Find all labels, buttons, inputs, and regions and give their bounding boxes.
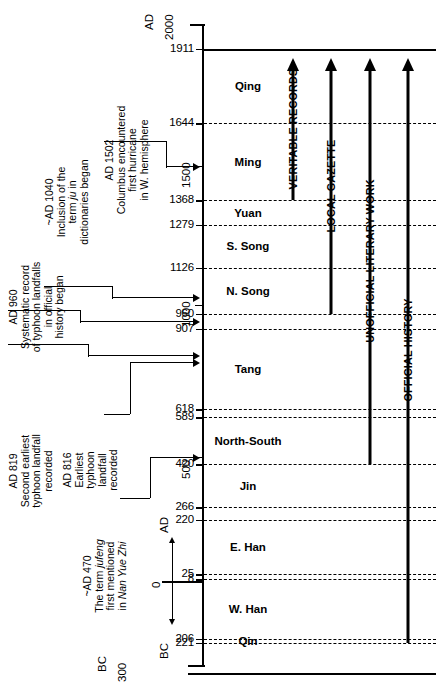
stub-816 — [104, 414, 130, 415]
elbow-819 — [88, 344, 89, 355]
boundary-line-dashed — [204, 507, 436, 508]
axis-tick-label: 1911 — [160, 42, 194, 54]
annotation-leader-run — [80, 321, 194, 322]
boundary-line-dashed — [204, 417, 436, 418]
stub-1040 — [44, 286, 112, 287]
annotation-date: AD 819 — [8, 397, 20, 545]
source-label: UNOFFICIAL LITERARY WORK — [364, 179, 376, 343]
axis-tick — [196, 200, 204, 201]
axis-tick — [196, 464, 204, 465]
elbow-1040 — [112, 286, 113, 297]
axis-tick-label: 1126 — [160, 261, 194, 273]
axis-bottom-year-label: 300 — [116, 663, 128, 682]
axis-tick-label: 907 — [160, 322, 194, 334]
source-label: LOCAL GAZETTE — [325, 139, 337, 232]
dynasty-label: Jin — [240, 480, 257, 492]
annotation-line: in Nan Yue Zhi — [117, 502, 129, 650]
axis-tick — [196, 520, 204, 521]
annotation-leader-arrow — [193, 318, 200, 326]
axis-top-cap — [190, 24, 205, 26]
axis-tick-label: 266 — [160, 500, 194, 512]
boundary-line-dashed — [204, 123, 436, 124]
annotation-leader-arrow — [193, 163, 200, 171]
annotation-ad-470: ~AD 470The term jufengfirst mentionedin … — [82, 502, 128, 650]
elbow-960 — [80, 310, 81, 321]
axis-bottom-era-label: BC — [96, 656, 108, 672]
annotation-leader-run — [166, 166, 194, 167]
annotation-leader-arrow — [193, 359, 200, 367]
stub-1502 — [104, 141, 166, 142]
axis-decade-tick — [195, 305, 203, 306]
annotation-leader-arrow — [193, 294, 200, 302]
annotation-ad-1502: AD 1502Columbus encounteredfirst hurrica… — [104, 62, 150, 258]
source-label: OFFICIAL HISTORY — [402, 299, 414, 402]
boundary-line-dashed — [204, 464, 436, 465]
annotation-date: AD 960 — [8, 214, 20, 400]
stub-470 — [120, 498, 150, 499]
boundary-line-dashed — [204, 225, 436, 226]
dynasty-label: North-South — [214, 435, 281, 447]
dynasty-label: E. Han — [230, 541, 266, 553]
annotation-leader-run — [130, 362, 194, 363]
dynasty-label: Tang — [235, 363, 262, 375]
axis-tick — [196, 579, 204, 580]
axis-top-year-label: 2000 — [163, 14, 175, 40]
annotation-date: AD 1502 — [104, 62, 116, 258]
dynasty-label: Ming — [235, 156, 262, 168]
axis-tick — [196, 643, 204, 644]
axis-tick — [196, 314, 204, 315]
dynasty-label: S. Song — [227, 240, 270, 252]
boundary-line-dashed — [204, 574, 436, 575]
axis-tick-label: 221 — [160, 636, 194, 648]
boundary-line-dashed — [204, 200, 436, 201]
boundary-line-dashed — [204, 409, 436, 410]
dynasty-label: Qing — [235, 80, 261, 92]
dynasty-label: W. Han — [229, 603, 267, 615]
axis-bottom-cap — [188, 665, 205, 667]
axis-tick-label: 8 — [160, 572, 194, 584]
boundary-line-dashed — [204, 520, 436, 521]
dynasty-label: N. Song — [226, 285, 269, 297]
annotation-date: AD 816 — [62, 395, 74, 545]
elbow-470 — [150, 457, 151, 498]
axis-tick-label: 960 — [160, 307, 194, 319]
axis-tick — [196, 417, 204, 418]
annotation-ad-960: AD 960Systematic recordof typhoon landfa… — [8, 214, 66, 400]
annotation-leader-run — [88, 355, 194, 356]
boundary-line-solid — [204, 49, 436, 51]
annotation-leader-arrow — [193, 454, 200, 462]
dynasty-label: Qin — [238, 635, 257, 647]
axis-tick — [196, 225, 204, 226]
source-label: VERITABLE RECORDS — [287, 69, 299, 190]
axis-tick — [196, 268, 204, 269]
axis-tick — [196, 49, 204, 50]
annotation-line: dictionaries began — [79, 122, 91, 282]
axis-tick — [196, 329, 204, 330]
axis-tick — [196, 123, 204, 124]
annotation-line: recorded — [43, 397, 55, 545]
axis-top-era-label: AD — [143, 14, 155, 30]
axis-tick — [196, 507, 204, 508]
figure-baseline — [188, 673, 436, 675]
axis-tick-label: 1279 — [160, 218, 194, 230]
elbow-816 — [130, 362, 131, 414]
boundary-line-dashed — [204, 268, 436, 269]
annotation-leader-run — [112, 297, 194, 298]
stub-960 — [8, 310, 80, 311]
axis-tick — [196, 639, 204, 640]
timeline-axis — [202, 24, 204, 665]
era-arrow-down — [169, 619, 175, 625]
boundary-line-dashed — [204, 579, 436, 580]
annotation-date: ~AD 470 — [82, 502, 94, 650]
annotation-ad-819: AD 819Second earliesttyphoon landfallrec… — [8, 397, 54, 545]
axis-tick — [196, 574, 204, 575]
annotation-line: in W. hemisphere — [139, 62, 151, 258]
stub-819 — [8, 344, 88, 345]
annotation-leader-run — [150, 457, 194, 458]
axis-tick-label: 1368 — [160, 193, 194, 205]
dynasty-label: Yuan — [234, 207, 261, 219]
axis-tick — [196, 409, 204, 410]
era-arrow-up — [169, 537, 175, 543]
axis-tick-label: 220 — [160, 513, 194, 525]
timeline-figure: AD2000BC300150010005000ADBC1911164413681… — [0, 0, 436, 687]
